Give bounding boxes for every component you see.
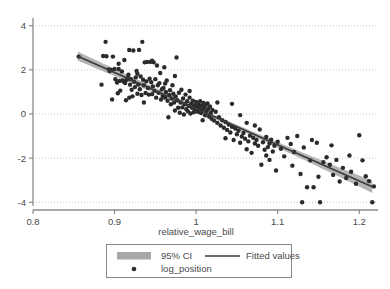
- legend-swatch-log-position: [132, 267, 137, 272]
- scatter-point: [170, 83, 174, 87]
- scatter-point: [290, 163, 294, 167]
- scatter-point: [311, 185, 315, 189]
- scatter-point: [244, 147, 248, 151]
- scatter-point: [261, 140, 265, 144]
- scatter-point: [182, 112, 186, 116]
- scatter-point: [289, 142, 293, 146]
- scatter-point: [127, 95, 131, 99]
- scatter-point: [150, 58, 154, 62]
- scatter-point: [155, 63, 159, 67]
- scatter-point: [249, 151, 253, 155]
- scatter-point: [274, 168, 278, 172]
- scatter-point: [238, 140, 242, 144]
- scatter-point: [122, 58, 126, 62]
- scatter-point: [315, 140, 319, 144]
- scatter-point: [131, 48, 135, 52]
- scatter-point: [166, 115, 170, 119]
- x-tick-label: 1.2: [353, 216, 366, 227]
- scatter-point: [163, 81, 167, 85]
- scatter-point: [179, 88, 183, 92]
- scatter-point: [354, 182, 358, 186]
- y-tick-label: 0: [21, 108, 26, 119]
- scatter-point: [357, 133, 361, 137]
- scatter-point: [331, 173, 335, 177]
- scatter-point: [99, 82, 103, 86]
- scatter-point: [328, 163, 332, 167]
- scatter-plot-canvas: 420-2-4 0.80.911.11.2 relative_wage_bill…: [0, 0, 390, 289]
- scatter-point: [157, 81, 161, 85]
- legend-label-fitted-values: Fitted values: [246, 250, 300, 261]
- scatter-point: [140, 40, 144, 44]
- scatter-point: [183, 92, 187, 96]
- scatter-point: [112, 67, 116, 71]
- scatter-point: [174, 94, 178, 98]
- chart-legend: 95% CI Fitted values log_position: [107, 245, 301, 278]
- scatter-point: [295, 134, 299, 138]
- scatter-point: [329, 143, 333, 147]
- scatter-point: [127, 48, 131, 52]
- scatter-point: [367, 179, 371, 183]
- scatter-point: [259, 163, 263, 167]
- scatter-point: [238, 113, 242, 117]
- scatter-point: [111, 54, 115, 58]
- scatter-point: [316, 174, 320, 178]
- scatter-point: [178, 110, 182, 114]
- scatter-point: [318, 200, 322, 204]
- scatter-point: [298, 172, 302, 176]
- scatter-point: [139, 93, 143, 97]
- scatter-point: [254, 138, 258, 142]
- x-tick-label: 0.8: [26, 216, 39, 227]
- scatter-point: [200, 118, 204, 122]
- scatter-point: [341, 166, 345, 170]
- scatter-point: [271, 149, 275, 153]
- scatter-point: [181, 96, 185, 100]
- scatter-point: [138, 87, 142, 91]
- scatter-point: [231, 138, 235, 142]
- scatter-point: [253, 123, 257, 127]
- y-tick-label: -2: [18, 153, 26, 164]
- scatter-point: [162, 65, 166, 69]
- scatter-point: [164, 90, 168, 94]
- scatter-point: [267, 158, 271, 162]
- y-tick-label: -4: [18, 197, 26, 208]
- scatter-point: [116, 61, 120, 65]
- scatter-point: [246, 139, 250, 143]
- scatter-point: [135, 92, 139, 96]
- scatter-point: [168, 88, 172, 92]
- scatter-point: [241, 131, 245, 135]
- scatter-point: [230, 102, 234, 106]
- scatter-point: [165, 99, 169, 103]
- scatter-point: [118, 88, 122, 92]
- chart-figure: 420-2-4 0.80.911.11.2 relative_wage_bill…: [0, 0, 390, 289]
- legend-label-ci: 95% CI: [161, 250, 192, 261]
- scatter-point: [347, 153, 351, 157]
- scatter-point: [173, 74, 177, 78]
- scatter-point: [302, 145, 306, 149]
- scatter-point: [264, 153, 268, 157]
- scatter-point: [349, 170, 353, 174]
- scatter-point: [228, 130, 232, 134]
- scatter-point: [215, 100, 219, 104]
- scatter-point: [176, 106, 180, 110]
- scatter-point: [223, 136, 227, 140]
- scatter-point: [126, 73, 130, 77]
- scatter-point: [137, 48, 141, 52]
- x-axis-title: relative_wage_bill: [158, 226, 234, 237]
- scatter-point: [116, 67, 120, 71]
- scatter-point: [187, 95, 191, 99]
- scatter-point: [285, 136, 289, 140]
- scatter-point: [103, 40, 107, 44]
- scatter-point: [256, 144, 260, 148]
- scatter-point: [282, 154, 286, 158]
- scatter-point: [244, 121, 248, 125]
- scatter-point: [149, 80, 153, 84]
- scatter-point: [214, 110, 218, 114]
- y-tick-label: 4: [21, 20, 26, 31]
- x-tick-label: 1: [193, 216, 198, 227]
- scatter-point: [337, 179, 341, 183]
- scatter-point: [370, 200, 374, 204]
- scatter-point: [174, 55, 178, 59]
- legend-label-log-position: log_position: [161, 263, 212, 274]
- x-tick-label: 0.9: [108, 216, 121, 227]
- scatter-point: [110, 97, 114, 101]
